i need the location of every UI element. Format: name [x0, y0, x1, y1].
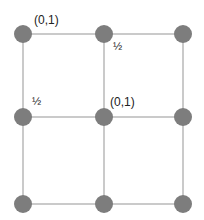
grid-graph: [0, 0, 204, 220]
label-middle-left: ½: [32, 96, 41, 107]
node-0-2: [174, 25, 192, 43]
node-1-0: [14, 108, 32, 126]
node-0-1: [95, 25, 113, 43]
label-top-left: (0,1): [34, 14, 59, 26]
node-0-0: [14, 25, 32, 43]
node-2-1: [95, 195, 113, 213]
nodes: [14, 25, 192, 213]
label-top-middle: ½: [113, 41, 122, 52]
node-1-1: [95, 108, 113, 126]
label-center: (0,1): [110, 96, 135, 108]
node-1-2: [174, 108, 192, 126]
node-2-0: [14, 195, 32, 213]
node-2-2: [174, 195, 192, 213]
